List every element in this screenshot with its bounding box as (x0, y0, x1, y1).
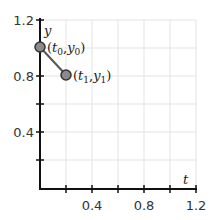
x-axis-label: t (183, 172, 189, 187)
x-tick-label: 1.2 (186, 198, 207, 213)
x-tick-label: 0.4 (82, 198, 103, 213)
y-tick-label: 0.4 (13, 125, 34, 140)
data-point-1 (61, 70, 71, 80)
point-label-0: (t0,y0) (47, 40, 85, 57)
y-tick-label: 1.2 (13, 13, 34, 28)
y-axis-label: y (43, 23, 52, 38)
axis-ticks (36, 20, 196, 193)
chart: 0.4 0.8 1.2 1.2 0.8 0.4 y t (t0,y0) (t1,… (0, 0, 212, 220)
y-tick-label: 0.8 (13, 69, 34, 84)
x-tick-label: 0.8 (134, 198, 155, 213)
data-point-0 (35, 42, 45, 52)
point-label-1: (t1,y1) (73, 68, 111, 85)
